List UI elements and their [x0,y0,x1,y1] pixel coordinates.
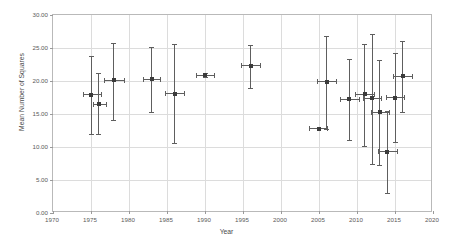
data-point-marker [401,74,405,78]
x-tick-label: 1990 [187,216,221,223]
gridline-vertical [243,15,244,211]
error-bar-cap-horizontal [309,126,310,131]
scatter-chart: Year Mean Number of Squares 197019751980… [0,0,453,248]
x-tick-mark [91,211,92,214]
data-point-marker [393,96,397,100]
error-bar-cap-vertical [370,164,375,165]
error-bar-cap-horizontal [381,96,382,101]
data-point-marker [97,102,101,106]
error-bar-cap-vertical [393,53,398,54]
x-tick-mark [167,211,168,214]
error-bar-cap-vertical [400,112,405,113]
x-tick-label: 2005 [301,216,335,223]
gridline-vertical [319,15,320,211]
error-bar-cap-vertical [393,142,398,143]
x-tick-label: 1980 [111,216,145,223]
error-bar-cap-horizontal [397,149,398,154]
x-tick-mark [357,211,358,214]
error-bar-cap-horizontal [378,149,379,154]
error-bar-cap-vertical [248,88,253,89]
error-bar-cap-vertical [89,56,94,57]
y-tick-label: 20.00 [4,77,48,84]
error-bar-cap-horizontal [104,78,105,83]
x-tick-mark [281,211,282,214]
error-bar-cap-horizontal [165,91,166,96]
x-tick-mark [319,211,320,214]
error-bar-cap-horizontal [184,91,185,96]
x-tick-label: 1970 [35,216,69,223]
error-bar-cap-horizontal [371,110,372,115]
error-bar-cap-vertical [362,146,367,147]
y-tick-mark [50,180,53,181]
error-bar-cap-vertical [172,44,177,45]
error-bar-cap-horizontal [83,92,84,97]
data-point-marker [317,127,321,131]
error-bar-cap-vertical [248,45,253,46]
error-bar-cap-vertical [377,60,382,61]
error-bar-cap-vertical [347,59,352,60]
error-bar-cap-horizontal [393,74,394,79]
error-bar-cap-horizontal [214,73,215,78]
error-bar-cap-vertical [111,120,116,121]
error-bar-cap-vertical [400,41,405,42]
x-tick-label: 1985 [149,216,183,223]
y-tick-label: 30.00 [4,11,48,18]
x-tick-mark [129,211,130,214]
error-bar-cap-horizontal [374,92,375,97]
error-bar-cap-horizontal [124,78,125,83]
y-tick-mark [50,81,53,82]
error-bar-cap-horizontal [336,79,337,84]
error-bar-cap-vertical [362,44,367,45]
y-tick-label: 0.00 [4,209,48,216]
x-tick-label: 2000 [263,216,297,223]
x-tick-mark [53,211,54,214]
data-point-marker [347,97,351,101]
data-point-marker [249,64,253,68]
data-point-marker [203,73,207,77]
error-bar-cap-horizontal [355,92,356,97]
error-bar-cap-horizontal [260,63,261,68]
error-bar-cap-horizontal [317,79,318,84]
y-tick-mark [50,213,53,214]
error-bar-cap-horizontal [386,95,387,100]
error-bar-cap-vertical [377,165,382,166]
y-tick-mark [50,114,53,115]
gridline-horizontal [53,147,431,148]
error-bar-cap-vertical [96,134,101,135]
error-bar-cap-vertical [111,43,116,44]
x-tick-label: 1975 [73,216,107,223]
gridline-horizontal [53,180,431,181]
y-tick-label: 10.00 [4,143,48,150]
gridline-vertical [205,15,206,211]
data-point-marker [378,110,382,114]
y-tick-mark [50,48,53,49]
y-tick-label: 15.00 [4,110,48,117]
x-axis-title: Year [0,228,453,236]
data-point-marker [150,77,154,81]
error-bar-cap-horizontal [340,97,341,102]
data-point-marker [173,92,177,96]
gridline-horizontal [53,81,431,82]
error-bar-cap-horizontal [412,74,413,79]
error-bar-cap-horizontal [359,97,360,102]
x-tick-label: 2020 [415,216,449,223]
error-bar-cap-vertical [96,73,101,74]
error-bar-cap-horizontal [160,77,161,82]
y-tick-label: 5.00 [4,176,48,183]
error-bar-cap-vertical [149,112,154,113]
x-tick-label: 2010 [339,216,373,223]
x-tick-mark [243,211,244,214]
x-tick-mark [395,211,396,214]
error-bar-cap-vertical [385,111,390,112]
x-tick-label: 1995 [225,216,259,223]
error-bar-cap-vertical [203,77,208,78]
gridline-vertical [357,15,358,211]
error-bar-cap-vertical [149,47,154,48]
y-tick-label: 25.00 [4,44,48,51]
error-bar-cap-horizontal [101,92,102,97]
error-bar-cap-vertical [324,129,329,130]
x-tick-label: 2015 [377,216,411,223]
error-bar-cap-vertical [324,36,329,37]
error-bar-cap-vertical [172,143,177,144]
data-point-marker [89,93,93,97]
